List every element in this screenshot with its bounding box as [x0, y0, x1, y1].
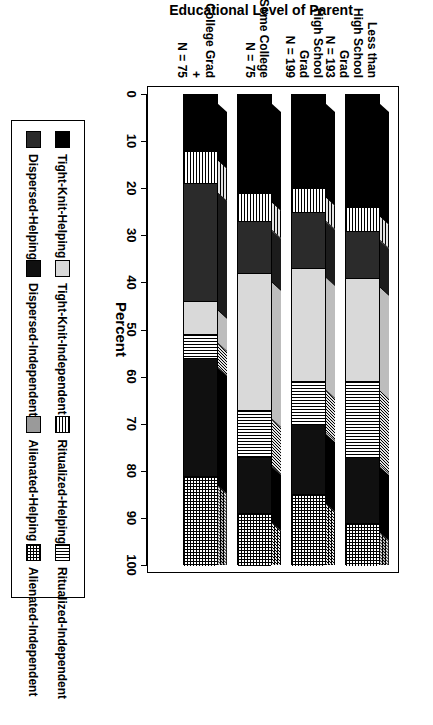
- legend-label: Ritualized-Helping: [56, 439, 70, 544]
- legend-label: Ritualized-Independent: [56, 567, 70, 699]
- bar-segment-rh[interactable]: [346, 208, 379, 232]
- x-axis-tick: [141, 282, 147, 283]
- bar-segment-tkh[interactable]: [292, 95, 325, 189]
- bar-segment-top-tki: [271, 282, 281, 428]
- y-axis-title: Educational Level of Parent: [111, 2, 411, 22]
- bar-segment-tki[interactable]: [238, 274, 271, 411]
- bar-segment-rh[interactable]: [292, 189, 325, 213]
- bar-segment-tkh[interactable]: [238, 95, 271, 194]
- x-axis-tick: [141, 141, 147, 142]
- x-axis-title: Percent: [113, 86, 130, 573]
- bar-segment-tkh[interactable]: [184, 95, 217, 152]
- bar-group[interactable]: [345, 94, 389, 565]
- legend-swatch-ai: [26, 544, 41, 561]
- stacked-bar-chart-figure: Less than High School GradN = 193High Sc…: [0, 0, 433, 725]
- legend-item-di[interactable]: Dispersed-Independent: [19, 260, 48, 416]
- bar-segment-top-ai: [325, 503, 335, 565]
- bar-segment-ri[interactable]: [184, 335, 217, 359]
- x-axis-tick: [141, 471, 147, 472]
- bar-group[interactable]: [183, 94, 227, 565]
- bar-segment-top-dh: [379, 240, 389, 296]
- bar-segment-top-di: [217, 367, 227, 494]
- legend-item-ai[interactable]: Alienated-Independent: [19, 544, 48, 699]
- bar-body: [345, 94, 380, 565]
- legend-item-dh[interactable]: Dispersed-Helping: [19, 131, 48, 260]
- bar-segment-di[interactable]: [238, 458, 271, 515]
- bar-segment-tki[interactable]: [184, 302, 217, 335]
- bar-segment-dh[interactable]: [238, 222, 271, 274]
- x-axis-tick: [141, 94, 147, 95]
- legend-swatch-ri: [55, 544, 70, 561]
- legend-label: Alienated-Helping: [27, 439, 41, 541]
- legend-item-tki[interactable]: Tight-Knit-Independent: [48, 260, 77, 416]
- bar-segment-top-di: [325, 433, 335, 513]
- x-axis-tick: [141, 424, 147, 425]
- bar-segment-top-ri: [271, 419, 281, 475]
- bar-segment-ri[interactable]: [238, 411, 271, 458]
- bar-segment-rh[interactable]: [238, 194, 271, 222]
- legend-swatch-rh: [55, 416, 70, 433]
- rotated-figure-wrapper: Less than High School GradN = 193High Sc…: [0, 0, 433, 725]
- bar-segment-top-tkh: [217, 103, 227, 169]
- x-axis-tick: [141, 565, 147, 566]
- bar-segment-tki[interactable]: [346, 279, 379, 383]
- bar-segment-rh[interactable]: [184, 152, 217, 185]
- legend-label: Tight-Knit-Independent: [56, 283, 70, 415]
- bar-segment-top-tki: [325, 277, 335, 399]
- x-axis-tick: [141, 518, 147, 519]
- bar-top-face: [379, 94, 389, 565]
- bar-segment-ai[interactable]: [292, 495, 325, 566]
- legend-label: Dispersed-Independent: [27, 283, 41, 416]
- bar-segment-di[interactable]: [292, 425, 325, 496]
- bar-segment-dh[interactable]: [292, 213, 325, 270]
- bar-segment-top-tkh: [379, 103, 389, 225]
- bar-group[interactable]: [291, 94, 335, 565]
- bar-segment-top-tki: [379, 287, 389, 400]
- bar-segment-top-dh: [271, 230, 281, 291]
- bar-body: [237, 94, 272, 565]
- bars-container: [161, 94, 391, 565]
- x-axis-tick: [141, 330, 147, 331]
- bar-segment-di[interactable]: [184, 359, 217, 477]
- bar-segment-ai[interactable]: [346, 524, 379, 566]
- bar-segment-top-dh: [217, 192, 227, 319]
- legend-item-rh[interactable]: Ritualized-Helping: [48, 416, 77, 544]
- legend-item-ah[interactable]: Alienated-Helping: [19, 416, 48, 544]
- legend-item-ri[interactable]: Ritualized-Independent: [48, 544, 77, 699]
- bar-segment-top-di: [271, 466, 281, 532]
- bar-top-face: [325, 94, 335, 565]
- x-axis-tick: [141, 377, 147, 378]
- bar-body: [183, 94, 218, 565]
- legend-grid: Tight-Knit-HelpingTight-Knit-Independent…: [19, 131, 77, 587]
- legend-label: Dispersed-Helping: [27, 154, 41, 260]
- legend-swatch-di: [26, 260, 41, 277]
- legend-swatch-ah: [26, 416, 41, 433]
- x-axis-tick: [141, 188, 147, 189]
- bar-segment-ri[interactable]: [346, 382, 379, 457]
- legend-label: Tight-Knit-Helping: [56, 154, 70, 258]
- bar-segment-ai[interactable]: [184, 477, 217, 566]
- bar-group[interactable]: [237, 94, 281, 565]
- legend: Tight-Knit-HelpingTight-Knit-Independent…: [11, 120, 85, 598]
- bar-body: [291, 94, 326, 565]
- x-axis-tick: [141, 235, 147, 236]
- bar-top-face: [217, 94, 227, 565]
- bar-segment-tki[interactable]: [292, 269, 325, 382]
- bar-segment-dh[interactable]: [184, 184, 217, 302]
- bar-segment-dh[interactable]: [346, 232, 379, 279]
- bar-segment-top-ri: [379, 390, 389, 474]
- bar-segment-top-tkh: [271, 103, 281, 211]
- bar-segment-di[interactable]: [346, 458, 379, 524]
- legend-item-tkh[interactable]: Tight-Knit-Helping: [48, 131, 77, 260]
- bar-top-face: [271, 94, 281, 565]
- plot-area: 0102030405060708090100 Percent: [111, 86, 411, 573]
- legend-label: Alienated-Independent: [27, 567, 41, 696]
- legend-swatch-tki: [55, 260, 70, 277]
- bar-segment-top-di: [379, 466, 389, 541]
- bar-segment-ai[interactable]: [238, 514, 271, 566]
- bar-segment-tkh[interactable]: [346, 95, 379, 208]
- bar-segment-top-dh: [325, 221, 335, 287]
- bar-segment-ri[interactable]: [292, 382, 325, 424]
- legend-swatch-tkh: [55, 131, 70, 148]
- bar-segment-top-ai: [217, 485, 227, 566]
